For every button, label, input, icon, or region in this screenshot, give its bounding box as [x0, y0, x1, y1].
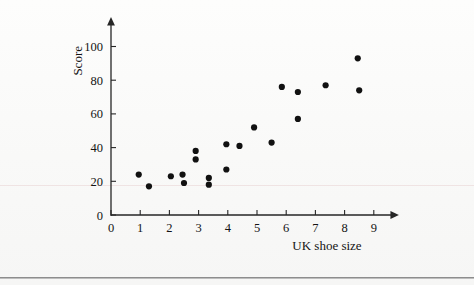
- data-point: [206, 182, 212, 188]
- data-point: [168, 173, 174, 179]
- data-point: [279, 84, 285, 90]
- data-point: [146, 183, 152, 189]
- data-point: [136, 171, 142, 177]
- x-tick-label: 7: [312, 221, 318, 235]
- x-tick-label: 4: [225, 221, 232, 235]
- y-tick-label: 80: [91, 74, 104, 88]
- data-point-group: [136, 55, 363, 189]
- data-point: [193, 156, 199, 162]
- y-tick-label: 100: [84, 40, 103, 54]
- x-tick-label: 5: [254, 221, 260, 235]
- y-axis-ticks: [111, 47, 116, 216]
- data-point: [251, 124, 257, 130]
- data-point: [295, 116, 301, 122]
- x-tick-label: 2: [166, 221, 172, 235]
- data-point: [181, 180, 187, 186]
- y-axis-group: 020406080100 Score: [70, 24, 116, 223]
- data-point: [193, 148, 199, 154]
- data-point: [323, 82, 329, 88]
- y-tick-label: 20: [91, 175, 104, 189]
- x-tick-label: 0: [108, 221, 114, 235]
- y-tick-label: 0: [97, 209, 103, 223]
- x-tick-label: 3: [195, 221, 201, 235]
- x-tick-label: 9: [371, 221, 377, 235]
- x-axis-group: 0123456789 UK shoe size: [108, 210, 392, 253]
- data-point: [223, 141, 229, 147]
- x-tick-label: 1: [137, 221, 143, 235]
- x-axis-tick-labels: 0123456789: [108, 221, 377, 235]
- y-tick-label: 60: [91, 107, 104, 121]
- scatter-plot-svg: 020406080100 Score 0123456789 UK shoe si…: [0, 0, 474, 285]
- data-point: [179, 171, 185, 177]
- data-point: [295, 89, 301, 95]
- data-point: [223, 166, 229, 172]
- y-axis-tick-labels: 020406080100: [84, 40, 103, 223]
- x-axis-title: UK shoe size: [292, 238, 362, 253]
- data-point: [206, 175, 212, 181]
- x-tick-label: 8: [341, 221, 347, 235]
- y-axis-title: Score: [70, 46, 85, 76]
- x-tick-label: 6: [283, 221, 289, 235]
- y-tick-label: 40: [91, 141, 104, 155]
- data-point: [269, 139, 275, 145]
- data-point: [236, 143, 242, 149]
- scatter-plot-figure: 020406080100 Score 0123456789 UK shoe si…: [0, 0, 474, 285]
- data-point: [356, 87, 362, 93]
- x-axis-ticks: [111, 210, 374, 215]
- data-point: [355, 55, 361, 61]
